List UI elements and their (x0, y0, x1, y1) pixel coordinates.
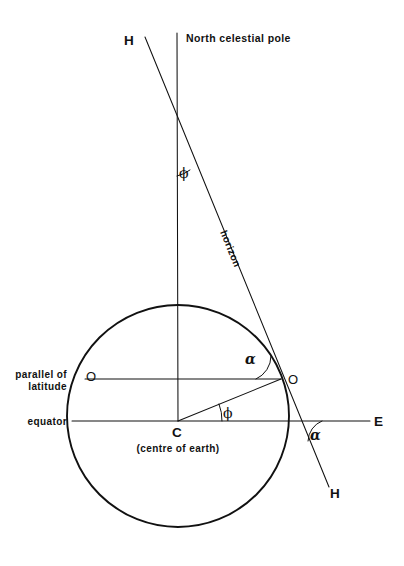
angle-arc-alpha-upper (256, 356, 271, 379)
label-east: E (374, 414, 383, 429)
label-north-celestial-pole: North celestial pole (186, 32, 291, 44)
astronomy-diagram: H North celestial pole horizon parallel … (0, 0, 404, 566)
label-angle-phi-centre: ϕ (223, 405, 233, 421)
label-horizon: horizon (218, 229, 243, 269)
label-angle-phi-top: ϕ (179, 165, 189, 181)
label-equator: equator (28, 416, 67, 427)
label-parallel-of-latitude-line2: latitude (28, 381, 67, 392)
diagram-canvas: H North celestial pole horizon parallel … (0, 0, 404, 566)
polar-axis-line (177, 33, 178, 421)
label-centre-point: C (172, 425, 182, 440)
label-parallel-of-latitude-line1: parallel of (15, 369, 67, 380)
label-observer-right: O (288, 372, 299, 387)
label-angle-alpha-upper: α (245, 351, 256, 367)
label-h-top: H (124, 33, 134, 48)
angle-arc-phi-centre (219, 404, 222, 421)
label-centre-caption: (centre of earth) (137, 443, 220, 454)
label-observer-left: O (86, 369, 97, 384)
label-angle-alpha-lower: α (310, 427, 321, 443)
label-h-bottom: H (330, 486, 340, 501)
